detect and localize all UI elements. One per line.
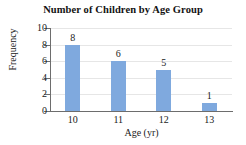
x-tick-label: 11 xyxy=(101,114,135,125)
bar-value-label: 8 xyxy=(58,33,88,43)
gridline xyxy=(50,28,232,29)
bar xyxy=(65,45,80,111)
y-tick-label: 8 xyxy=(19,40,47,50)
bar xyxy=(202,103,217,111)
y-tick-label: 6 xyxy=(19,56,47,66)
x-tick-label: 13 xyxy=(192,114,226,125)
bar xyxy=(156,70,171,112)
x-axis-title: Age (yr) xyxy=(50,127,233,138)
y-tick-label: 2 xyxy=(19,89,47,99)
x-tick-label: 12 xyxy=(147,114,181,125)
y-tick-label: 10 xyxy=(19,23,47,33)
y-tick-label: 0 xyxy=(19,106,47,116)
y-tick-label: 4 xyxy=(19,73,47,83)
bar-chart: Number of Children by Age Group Frequenc… xyxy=(0,0,246,145)
bar-value-label: 1 xyxy=(194,91,224,101)
x-tick-label: 10 xyxy=(56,114,90,125)
chart-title: Number of Children by Age Group xyxy=(0,4,246,15)
y-axis-title: Frequency xyxy=(7,22,18,78)
bar xyxy=(111,61,126,111)
y-axis-line xyxy=(50,28,51,112)
bar-value-label: 5 xyxy=(149,58,179,68)
bar-value-label: 6 xyxy=(103,49,133,59)
x-axis-line xyxy=(50,111,233,112)
